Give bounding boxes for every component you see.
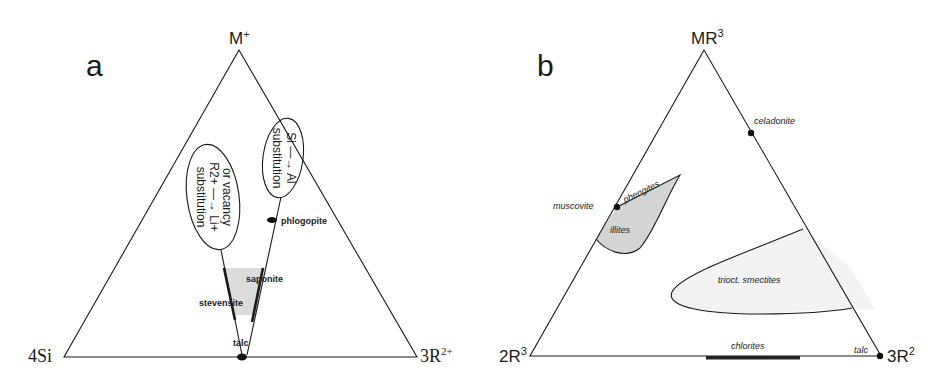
panel-a-letter: a (86, 49, 103, 82)
talc-label-b: talc (854, 345, 869, 355)
ellipse-si-al-substitution: substitution Si —→ Al (258, 116, 309, 201)
vertex-right-a: 3R2+ (420, 345, 453, 366)
ellipse-a-line2: R2+ —→ Li+ (207, 162, 221, 231)
phlogopite-point (267, 217, 277, 223)
ellipse-a-line3: or vacancy (220, 168, 234, 226)
vertex-left-a: 4Si (28, 346, 52, 366)
stevensite-label: stevensite (199, 298, 243, 308)
vertex-right-b: 3R2 (887, 345, 915, 366)
panel-b-letter: b (537, 49, 554, 82)
vertex-left-b: 2R3 (499, 345, 527, 366)
ellipse-a-line1: substitution (194, 167, 208, 228)
ellipse-r2-li-substitution: substitution R2+ —→ Li+ or vacancy (180, 141, 246, 253)
talc-point-a (237, 354, 247, 361)
ellipse-b-line1: substitution (270, 128, 284, 189)
celadonite-label: celadonite (754, 116, 795, 126)
celadonite-point (748, 130, 754, 136)
trioct-smectites-label: trioct. smectites (718, 275, 781, 285)
illites-label: illites (610, 225, 631, 235)
chlorites-bar (706, 356, 800, 360)
muscovite-point (614, 204, 620, 210)
saponite-label: saponite (246, 274, 283, 284)
ellipse-b-line2: Si —→ Al (284, 132, 298, 183)
phlogopite-label: phlogopite (281, 216, 327, 226)
talc-point-b (877, 353, 883, 359)
ternary-diagram-figure: a M+ 4Si 3R2+ substitution R2+ —→ Li+ or… (0, 0, 943, 378)
panel-a: a M+ 4Si 3R2+ substitution R2+ —→ Li+ or… (28, 28, 453, 366)
vertex-top-a: M+ (229, 28, 250, 48)
muscovite-label: muscovite (553, 201, 594, 211)
talc-label-a: talc (233, 338, 249, 348)
trioct-smectites-fill (671, 229, 875, 314)
chlorites-label: chlorites (731, 341, 765, 351)
panel-b: b MR3 2R3 3R2 celadonite muscovite pheng… (499, 27, 915, 366)
vertex-top-b: MR3 (691, 27, 724, 48)
